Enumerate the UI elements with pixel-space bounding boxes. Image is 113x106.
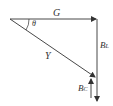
theta-arc-icon xyxy=(26,19,29,30)
bc-sub: C xyxy=(84,86,88,92)
g-label: G xyxy=(53,8,60,18)
bc-label: BC xyxy=(78,84,88,93)
phasor-diagram: G θ Y BL BC xyxy=(0,0,113,106)
theta-label: θ xyxy=(32,20,36,28)
bl-sub: L xyxy=(106,43,109,49)
y-label: Y xyxy=(45,51,51,61)
y-vector xyxy=(10,19,95,77)
bl-label: BL xyxy=(100,41,109,50)
